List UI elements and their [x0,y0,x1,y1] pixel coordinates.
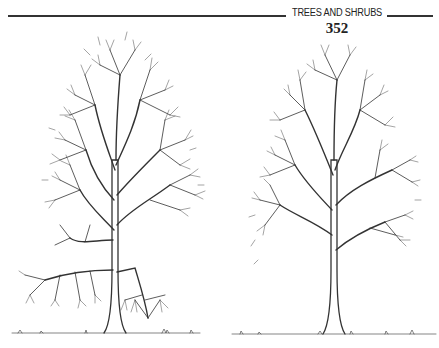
tree-right [232,45,436,334]
tree-illustrations [0,0,439,348]
tree-left [12,32,205,333]
